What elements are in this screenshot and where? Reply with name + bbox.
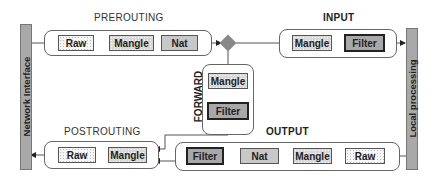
postrouting-mangle-table: Mangle xyxy=(108,147,147,163)
local-processing-label: Local processing xyxy=(407,28,418,170)
output-mangle-table: Mangle xyxy=(293,148,332,164)
forward-mangle-table: Mangle xyxy=(208,73,248,89)
prerouting-mangle-table: Mangle xyxy=(109,35,154,51)
input-title: INPUT xyxy=(323,12,355,23)
postrouting-raw-table: Raw xyxy=(58,147,96,163)
prerouting-raw-table: Raw xyxy=(58,35,94,51)
output-filter-table: Filter xyxy=(186,147,224,165)
prerouting-nat-table: Nat xyxy=(161,35,198,51)
input-filter-table: Filter xyxy=(344,34,385,52)
output-nat-table: Nat xyxy=(240,148,279,164)
output-raw-table: Raw xyxy=(345,148,385,164)
postrouting-title: POSTROUTING xyxy=(64,126,141,137)
prerouting-title: PREROUTING xyxy=(94,12,164,23)
network-interface-label: Network Interface xyxy=(21,24,32,170)
output-title: OUTPUT xyxy=(266,126,309,137)
input-mangle-table: Mangle xyxy=(292,35,332,51)
forward-filter-table: Filter xyxy=(207,102,249,120)
